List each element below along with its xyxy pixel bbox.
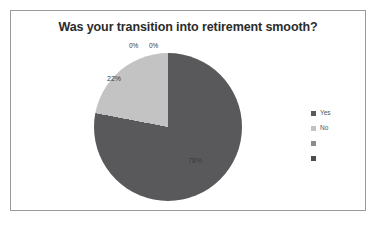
- chart-legend: Yes No: [311, 106, 367, 166]
- legend-swatch-no: [311, 126, 316, 131]
- legend-item-no[interactable]: No: [311, 121, 367, 136]
- pie-plot-area: 0% 0% 22% 78%: [37, 41, 277, 206]
- slice-label-no: 22%: [107, 75, 121, 82]
- legend-swatch-4: [311, 156, 316, 161]
- legend-item-yes[interactable]: Yes: [311, 106, 367, 121]
- legend-item-3[interactable]: [311, 136, 367, 151]
- slice-label-zero-a: 0%: [129, 42, 138, 49]
- legend-swatch-3: [311, 141, 316, 146]
- slice-label-yes: 78%: [188, 157, 202, 164]
- legend-item-4[interactable]: [311, 151, 367, 166]
- legend-label-yes: Yes: [320, 110, 331, 117]
- legend-swatch-yes: [311, 111, 316, 116]
- slice-label-zero-b: 0%: [149, 42, 158, 49]
- chart-frame: Was your transition into retirement smoo…: [10, 10, 366, 211]
- legend-label-no: No: [320, 125, 328, 132]
- chart-title: Was your transition into retirement smoo…: [11, 20, 365, 34]
